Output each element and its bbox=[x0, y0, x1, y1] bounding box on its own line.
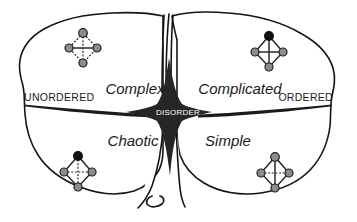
axis-label-unordered: UNORDERED bbox=[24, 91, 94, 103]
quadrant-label-complex: Complex bbox=[105, 80, 165, 97]
quadrant-label-simple: Simple bbox=[205, 132, 251, 149]
quadrant-label-chaotic: Chaotic bbox=[108, 132, 159, 149]
disorder-label: DISORDER bbox=[156, 108, 200, 117]
left-lobe-outline bbox=[19, 13, 163, 194]
quadrant-label-complicated: Complicated bbox=[198, 80, 282, 97]
diagram-svg: DISORDER Complex Complicated Chaotic Sim… bbox=[0, 0, 357, 222]
axis-label-ordered: ORDERED bbox=[278, 91, 333, 103]
bottom-squiggle-icon bbox=[147, 196, 164, 207]
cynefin-diagram-canvas: DISORDER Complex Complicated Chaotic Sim… bbox=[0, 0, 357, 222]
